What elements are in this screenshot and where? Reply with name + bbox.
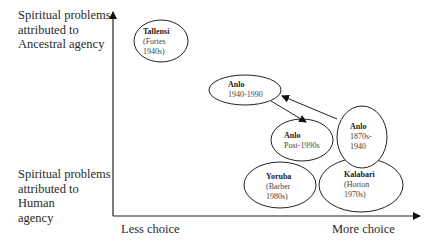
- node-subtitle: (Fortes 1940s): [143, 37, 169, 57]
- x-axis-right-label: More choice: [332, 222, 395, 237]
- y-bottom-line-3: Human: [18, 196, 111, 211]
- y-axis-top-label: Spiritual problems attributed to Ancestr…: [18, 8, 111, 52]
- node-subtitle: (Horton 1970s): [344, 180, 375, 200]
- node-title: Anlo: [228, 80, 263, 90]
- node-subtitle: Post-1990s: [284, 141, 320, 151]
- node-subtitle: 1940-1990: [228, 90, 263, 100]
- x-axis-left-label: Less choice: [121, 222, 180, 237]
- node-kalabari: Kalabari (Horton 1970s): [344, 170, 375, 200]
- y-top-line-1: Spiritual problems: [18, 8, 111, 23]
- y-bottom-line-1: Spiritual problems: [18, 167, 111, 182]
- node-yoruba: Yoruba (Barber 1980s): [266, 172, 291, 202]
- node-title: Kalabari: [344, 170, 375, 180]
- node-title: Anlo: [284, 131, 320, 141]
- node-title: Anlo: [350, 122, 372, 132]
- node-anlo-1870s-1940: Anlo 1870s- 1940: [350, 122, 372, 152]
- y-bottom-line-4: agency: [18, 211, 111, 226]
- y-top-line-3: Ancestral agency: [18, 37, 111, 52]
- node-subtitle: (Barber 1980s): [266, 182, 291, 202]
- node-anlo-1940-1990: Anlo 1940-1990: [228, 80, 263, 100]
- node-tallensi: Tallensi (Fortes 1940s): [143, 27, 169, 57]
- node-anlo-post-1990s: Anlo Post-1990s: [284, 131, 320, 151]
- y-top-line-2: attributed to: [18, 23, 111, 38]
- node-title: Yoruba: [266, 172, 291, 182]
- y-axis-bottom-label: Spiritual problems attributed to Human a…: [18, 167, 111, 225]
- node-title: Tallensi: [143, 27, 169, 37]
- y-bottom-line-2: attributed to: [18, 182, 111, 197]
- arrow-1870s-to-1940: [282, 96, 337, 119]
- node-subtitle: 1870s- 1940: [350, 132, 372, 152]
